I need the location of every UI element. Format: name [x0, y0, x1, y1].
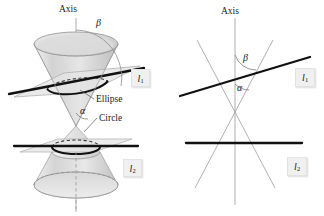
tag-l2-right: l2 — [287, 157, 307, 176]
tag-l2-left: l2 — [123, 159, 142, 177]
circle-leader-line — [84, 118, 97, 132]
right-panel-group — [180, 18, 310, 205]
left-panel-group — [9, 18, 144, 212]
tag-l2-left-sub: 2 — [133, 167, 136, 174]
beta-arc-right — [235, 55, 256, 70]
tag-l1-left: l1 — [131, 69, 150, 87]
figure-canvas — [0, 0, 324, 216]
generator-line-a — [197, 40, 275, 188]
tag-l2-right-sub: 2 — [297, 165, 300, 172]
line-l1-right — [180, 57, 310, 96]
tag-l1-right-sub: 1 — [305, 76, 308, 83]
tag-l1-right: l1 — [295, 68, 315, 87]
tag-l1-left-sub: 1 — [141, 77, 144, 84]
generator-line-b — [195, 40, 273, 188]
upper-cone-rim-inner — [38, 35, 114, 55]
conic-sections-figure: Axis β α Ellipse Circle l1 l2 Axis β α l… — [0, 0, 324, 216]
